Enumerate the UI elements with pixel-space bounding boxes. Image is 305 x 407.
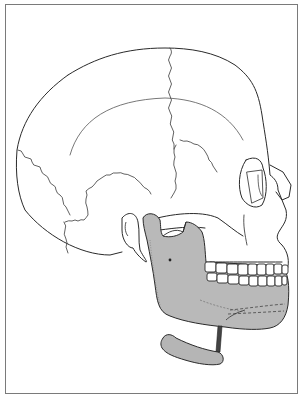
skull-illustration — [0, 0, 305, 407]
squamosal-suture — [65, 173, 151, 222]
stylohyoid-ligament — [216, 326, 222, 352]
teeth — [205, 262, 288, 286]
nasal-bone — [270, 165, 291, 200]
hyoid-bone — [161, 335, 223, 365]
temporal-line — [70, 98, 243, 155]
lambdoid-suture — [18, 150, 70, 215]
figure-caption — [0, 399, 305, 407]
orbit — [239, 158, 266, 207]
